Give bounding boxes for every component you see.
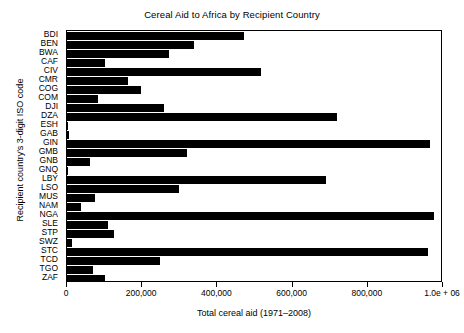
- chart-figure: Cereal Aid to Africa by Recipient Countr…: [0, 0, 464, 333]
- bar-fill: [67, 68, 261, 76]
- x-tick-label-4: 800,000: [351, 288, 382, 298]
- x-tick-mark-2: [216, 282, 217, 287]
- bar-fill: [67, 104, 164, 112]
- x-tick-label-0: 0: [64, 288, 69, 298]
- bar-bwa: [67, 50, 442, 58]
- bar-fill: [67, 221, 108, 229]
- bar-cmr: [67, 77, 442, 85]
- bar-lso: [67, 185, 442, 193]
- bar-fill: [67, 122, 68, 130]
- y-tick-label-zaf: ZAF: [42, 273, 58, 282]
- bar-gmb: [67, 149, 442, 157]
- bar-fill: [67, 275, 105, 283]
- bar-fill: [67, 239, 72, 247]
- bar-fill: [67, 158, 90, 166]
- bar-fill: [67, 185, 179, 193]
- x-tick-mark-3: [292, 282, 293, 287]
- x-axis-tick-labels: 0200,000400,000600,000800,0001.0e + 06: [0, 288, 464, 302]
- x-tick-label-5: 1.0e + 06: [424, 288, 460, 298]
- bar-fill: [67, 41, 194, 49]
- bar-fill: [67, 266, 93, 274]
- y-axis-tick-labels: BDIBENBWACAFCIVCMRCOGCOMDJIDZAESHGABGING…: [0, 30, 62, 282]
- bar-fill: [67, 32, 244, 40]
- x-axis-title: Total cereal aid (1971–2008): [66, 308, 442, 318]
- bar-nga: [67, 212, 442, 220]
- bar-fill: [67, 131, 69, 139]
- bar-fill: [67, 176, 326, 184]
- bar-fill: [67, 113, 337, 121]
- bar-stp: [67, 230, 442, 238]
- bar-gnq: [67, 167, 442, 175]
- x-tick-label-3: 600,000: [276, 288, 307, 298]
- bar-stc: [67, 248, 442, 256]
- x-tick-label-1: 200,000: [126, 288, 157, 298]
- bar-swz: [67, 239, 442, 247]
- bar-fill: [67, 59, 105, 67]
- bar-fill: [67, 140, 430, 148]
- bar-tgo: [67, 266, 442, 274]
- bar-fill: [67, 212, 434, 220]
- bar-fill: [67, 77, 128, 85]
- bar-fill: [67, 149, 187, 157]
- bar-gnb: [67, 158, 442, 166]
- x-tick-mark-0: [66, 282, 67, 287]
- bar-fill: [67, 203, 81, 211]
- bar-lby: [67, 176, 442, 184]
- bar-fill: [67, 248, 428, 256]
- bar-fill: [67, 50, 169, 58]
- bar-dji: [67, 104, 442, 112]
- bar-fill: [67, 230, 114, 238]
- bar-cog: [67, 86, 442, 94]
- bar-fill: [67, 95, 98, 103]
- bar-fill: [67, 86, 141, 94]
- bar-civ: [67, 68, 442, 76]
- bar-fill: [67, 167, 68, 175]
- bar-fill: [67, 257, 160, 265]
- bar-esh: [67, 122, 442, 130]
- x-tick-mark-5: [442, 282, 443, 287]
- bar-nam: [67, 203, 442, 211]
- chart-title: Cereal Aid to Africa by Recipient Countr…: [0, 9, 464, 20]
- bar-zaf: [67, 275, 442, 283]
- bar-ben: [67, 41, 442, 49]
- bar-fill: [67, 194, 95, 202]
- bar-gin: [67, 140, 442, 148]
- bar-dza: [67, 113, 442, 121]
- bar-gab: [67, 131, 442, 139]
- bar-tcd: [67, 257, 442, 265]
- bar-sle: [67, 221, 442, 229]
- plot-area: [66, 30, 442, 282]
- bar-com: [67, 95, 442, 103]
- bar-caf: [67, 59, 442, 67]
- bar-mus: [67, 194, 442, 202]
- x-tick-label-2: 400,000: [201, 288, 232, 298]
- bar-bdi: [67, 32, 442, 40]
- x-tick-mark-4: [367, 282, 368, 287]
- bar-series: [67, 31, 441, 281]
- x-tick-mark-1: [141, 282, 142, 287]
